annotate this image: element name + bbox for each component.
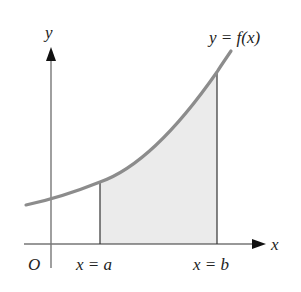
bound-label-a: x = a bbox=[75, 255, 112, 274]
y-axis-label: y bbox=[43, 23, 53, 42]
curve-label: y = f(x) bbox=[207, 28, 260, 47]
origin-label: O bbox=[28, 255, 40, 274]
x-axis-arrow-icon bbox=[252, 239, 266, 249]
x-axis-label: x bbox=[270, 235, 279, 254]
bound-label-b: x = b bbox=[192, 255, 229, 274]
y-axis-arrow-icon bbox=[46, 47, 56, 61]
area-under-curve-figure: y x O y = f(x) x = a x = b bbox=[0, 0, 301, 292]
